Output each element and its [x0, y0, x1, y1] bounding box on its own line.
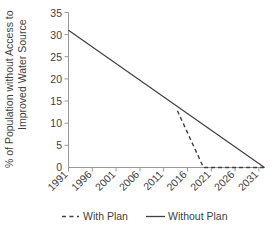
axis-lines	[69, 13, 265, 168]
water-access-line-chart: % of Population without Access to Improv…	[0, 0, 272, 235]
x-tick-label: 2001	[93, 168, 118, 193]
y-axis-title: % of Population without Access to Improv…	[3, 10, 28, 168]
x-tick-label: 1996	[69, 168, 94, 193]
y-tick-labels: 35 30 25 20 15 10 5 0	[50, 7, 62, 173]
legend-label-without-plan: Without Plan	[168, 210, 228, 222]
y-axis-title-line2: Improved Water Source	[16, 19, 28, 130]
y-tick-label: 35	[50, 7, 62, 19]
legend-label-with-plan: With Plan	[83, 210, 128, 222]
x-tick-label: 2006	[116, 168, 141, 193]
x-tick-labels: 1991 1996 2001 2006 2011 2016 2021 2026 …	[45, 168, 261, 193]
y-tick-label: 30	[50, 29, 62, 41]
y-tick-label: 5	[56, 139, 62, 151]
y-axis-title-line1: % of Population without Access to	[3, 10, 15, 168]
x-tick-label: 2031	[235, 168, 260, 193]
x-tick-label: 2026	[212, 168, 237, 193]
y-tick-label: 25	[50, 51, 62, 63]
chart-canvas: % of Population without Access to Improv…	[0, 0, 272, 235]
axes	[65, 13, 265, 172]
y-tick-label: 20	[50, 73, 62, 85]
series-without-plan-line	[69, 30, 265, 167]
data-series-group	[69, 30, 265, 167]
x-tick-label: 2016	[164, 168, 189, 193]
y-tick-label: 10	[50, 117, 62, 129]
x-tick-label: 2011	[141, 168, 166, 193]
y-tick-label: 15	[50, 95, 62, 107]
x-tick-label: 2021	[188, 168, 213, 193]
x-tick-label: 1991	[45, 168, 70, 193]
chart-legend: With Plan Without Plan	[62, 210, 228, 222]
